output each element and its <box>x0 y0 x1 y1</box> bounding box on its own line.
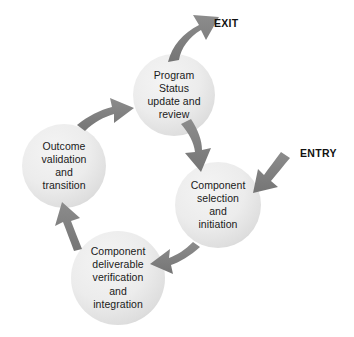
exit-arrow-icon <box>168 15 219 62</box>
outcome-to-status-arrow-icon <box>77 98 134 131</box>
component-deliverable-circle <box>71 231 165 325</box>
deliverable-to-outcome-arrow-icon <box>55 202 82 251</box>
cycle-diagram: Program Status update and review Compone… <box>0 0 354 337</box>
exit-label: EXIT <box>214 17 239 29</box>
program-status-circle <box>133 54 215 136</box>
outcome-validation-circle <box>22 124 106 208</box>
entry-arrow-icon <box>253 152 290 193</box>
component-selection-circle <box>175 162 261 248</box>
entry-label: ENTRY <box>300 147 337 159</box>
diagram-canvas <box>0 0 354 337</box>
